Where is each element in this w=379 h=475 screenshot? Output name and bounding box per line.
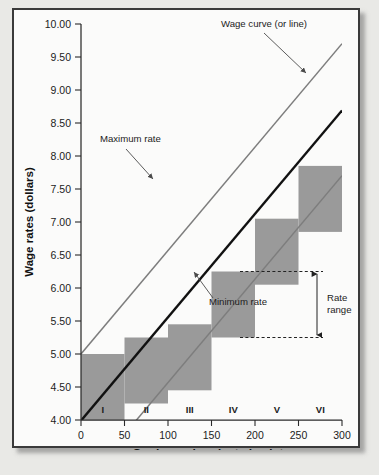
y-tick-label-450: 4.50 [51,381,72,393]
band-grade-vi [299,166,343,232]
rate-range-label-line1: Rate [327,292,347,303]
grade-labels: I II III IV V VI [101,404,324,415]
y-tick-label-700: 7.00 [51,216,72,228]
band-grade-ii [125,338,169,404]
x-tick-label-300: 300 [333,429,351,441]
y-tick-label-950: 9.50 [51,51,72,63]
wage-structure-chart: 10.00 9.50 9.00 8.50 8.00 7.50 7.00 6.50… [14,10,362,450]
y-axis-title: Wage rates (dollars) [23,167,35,277]
grade-bands [81,166,342,420]
y-tick-label-900: 9.00 [51,84,72,96]
wage-curve-arrow [264,33,306,73]
x-tick-label-0: 0 [78,429,84,441]
grade-label-i: I [101,404,104,415]
annotation-maximum-rate: Maximum rate [100,133,161,179]
y-tick-label-400: 4.00 [51,414,72,426]
grade-label-vi: VI [316,404,325,415]
grade-label-iii: III [186,404,194,415]
maximum-rate-arrow [126,149,153,179]
maximum-rate-label: Maximum rate [100,133,161,144]
x-tick-label-100: 100 [159,429,177,441]
y-axis: 10.00 9.50 9.00 8.50 8.00 7.50 7.00 6.50… [45,18,81,426]
figure-panel: 10.00 9.50 9.00 8.50 8.00 7.50 7.00 6.50… [12,8,360,448]
x-axis-title: Grades and evaluated points [132,447,289,450]
x-tick-label-50: 50 [119,429,131,441]
grade-label-iv: IV [229,404,239,415]
minimum-rate-label: Minimum rate [209,296,267,307]
band-grade-v [255,219,299,285]
annotation-wage-curve: Wage curve (or line) [221,18,307,73]
x-tick-label-200: 200 [246,429,264,441]
y-tick-label-850: 8.50 [51,117,72,129]
y-tick-label-500: 5.00 [51,348,72,360]
x-tick-label-150: 150 [203,429,221,441]
wage-curve-label: Wage curve (or line) [221,18,307,29]
x-axis: 0 50 100 150 200 250 300 [78,420,351,441]
rate-range-label-line2: range [327,304,352,315]
y-tick-label-750: 7.50 [51,183,72,195]
y-tick-label-600: 6.00 [51,282,72,294]
grade-label-v: V [274,404,281,415]
x-tick-label-250: 250 [290,429,308,441]
y-tick-label-650: 6.50 [51,249,72,261]
y-tick-label-800: 8.00 [51,150,72,162]
grade-label-ii: II [144,404,149,415]
y-tick-label-10: 10.00 [45,18,71,30]
y-tick-label-550: 5.50 [51,315,72,327]
